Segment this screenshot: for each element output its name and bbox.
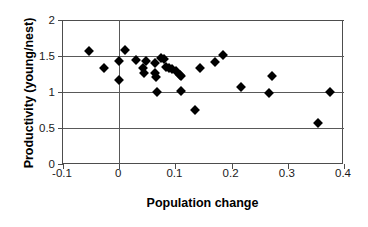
data-point [267, 71, 277, 81]
x-tick-label-0.1: 0.1 [166, 167, 182, 179]
data-point [190, 105, 200, 115]
y-tick-1 [58, 92, 63, 93]
data-point [210, 57, 220, 67]
gridline-y-1.5 [63, 56, 344, 57]
y-tick-0.5 [58, 128, 63, 129]
data-point [114, 75, 124, 85]
data-point [99, 63, 109, 73]
plot-area [62, 20, 343, 164]
data-point [84, 46, 94, 56]
data-point [152, 87, 162, 97]
y-tick-label-1: 1 [49, 86, 55, 98]
x-tick-label-0: 0 [115, 167, 121, 179]
x-axis-title: Population change [62, 196, 343, 210]
data-point [176, 86, 186, 96]
data-point [313, 118, 323, 128]
data-point [120, 45, 130, 55]
data-point [236, 82, 246, 92]
x-tick-label-0.2: 0.2 [223, 167, 239, 179]
gridline-y-1 [63, 92, 344, 93]
data-point [176, 71, 186, 81]
data-point [140, 68, 150, 78]
data-point [264, 88, 274, 98]
x-tick-label-0.4: 0.4 [335, 167, 351, 179]
gridline-y-2 [63, 20, 344, 21]
gridline-x-zero [119, 20, 120, 164]
y-axis-title: Productivity (young/nest) [22, 0, 36, 188]
gridline-y-0.5 [63, 128, 344, 129]
data-point [114, 56, 124, 66]
chart-screenshot: 00.511.52 Population change Productivity… [0, 0, 368, 227]
y-tick-label-2: 2 [49, 14, 55, 26]
data-point [195, 63, 205, 73]
y-tick-label-0.5: 0.5 [39, 122, 55, 134]
x-tick-label--0.1: -0.1 [52, 167, 72, 179]
y-tick-2 [58, 20, 63, 21]
y-tick-1.5 [58, 56, 63, 57]
data-point [325, 87, 335, 97]
data-point [218, 50, 228, 60]
y-tick-label-1.5: 1.5 [39, 50, 55, 62]
x-tick-label-0.3: 0.3 [279, 167, 295, 179]
